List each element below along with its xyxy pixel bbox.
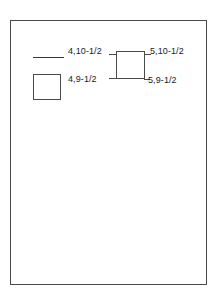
coordinate-label-bottom-right: 5,9-1/2 — [148, 75, 177, 85]
coordinate-square — [116, 51, 145, 79]
coordinate-label-top-right: 5,10-1/2 — [150, 46, 184, 56]
leader-line-bottom-left — [109, 78, 117, 79]
legend-line-swatch — [33, 57, 64, 58]
coordinate-label-top-left: 4,10-1/2 — [68, 46, 102, 56]
legend-square-swatch — [33, 74, 61, 100]
drawing-border-frame: 4,10-1/2 5,10-1/2 4,9-1/2 5,9-1/2 — [10, 20, 207, 285]
leader-line-top-left — [109, 54, 117, 55]
drawing-page: 4,10-1/2 5,10-1/2 4,9-1/2 5,9-1/2 — [0, 0, 219, 297]
coordinate-label-bottom-left: 4,9-1/2 — [68, 74, 97, 84]
